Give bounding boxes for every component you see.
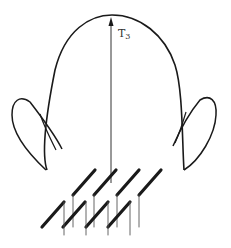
main-lobe xyxy=(45,15,184,170)
beam-label-subscript: 3 xyxy=(125,32,130,41)
left-side-lobe-inner xyxy=(40,114,56,150)
antenna-element xyxy=(86,202,108,227)
antenna-element xyxy=(73,170,95,195)
antenna-element xyxy=(117,170,139,195)
beam-direction-arrowhead xyxy=(109,17,114,26)
antenna-element xyxy=(139,170,161,195)
beam-label: T3 xyxy=(118,28,130,41)
antenna-element xyxy=(63,202,85,227)
antenna-element xyxy=(42,202,64,227)
antenna-element xyxy=(94,170,116,195)
left-side-lobe xyxy=(12,99,62,170)
array-back-row xyxy=(73,170,161,195)
antenna-array xyxy=(42,170,161,235)
right-side-lobe-inner xyxy=(175,112,186,143)
antenna-element xyxy=(108,202,130,227)
array-front-row-feeds xyxy=(64,202,130,235)
array-back-row-feeds xyxy=(73,195,139,227)
right-side-lobe xyxy=(173,98,216,170)
radiation-pattern-diagram xyxy=(0,0,231,248)
